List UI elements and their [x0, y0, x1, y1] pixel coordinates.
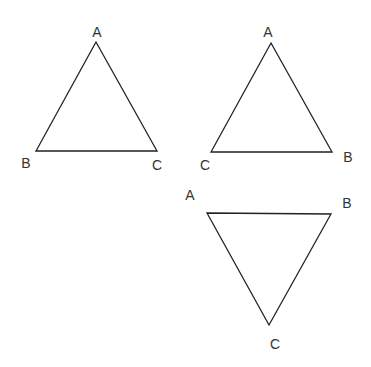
triangle-3-vertex-b-label: B — [342, 195, 351, 211]
triangle-1-vertex-b-label: B — [21, 155, 30, 171]
triangle-3-vertex-c-label: C — [270, 336, 280, 352]
triangles-diagram: A B C A B C A B C — [0, 0, 371, 367]
triangle-1-vertex-a-label: A — [92, 24, 102, 40]
triangle-3-vertex-a-label: A — [185, 187, 195, 203]
triangle-2-vertex-c-label: C — [200, 157, 210, 173]
triangle-1-shape — [36, 42, 157, 151]
triangle-2-shape — [211, 43, 332, 152]
triangle-2-vertex-b-label: B — [343, 149, 352, 165]
triangle-1: A B C — [21, 24, 162, 173]
triangle-2-vertex-a-label: A — [263, 24, 273, 40]
triangle-1-vertex-c-label: C — [152, 157, 162, 173]
triangle-2: A B C — [200, 24, 353, 173]
triangle-3: A B C — [185, 187, 351, 352]
triangle-3-shape — [207, 213, 331, 325]
